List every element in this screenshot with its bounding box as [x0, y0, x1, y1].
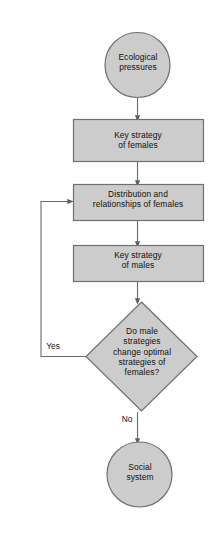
flowchart-canvas [0, 0, 218, 536]
node-key-strategy-males[interactable] [74, 246, 204, 282]
flowchart-diagram: Ecological pressures Key strategy of fem… [0, 0, 218, 536]
node-decision[interactable] [86, 302, 197, 411]
node-shape-circle [107, 442, 172, 507]
node-distribution-relationships-females[interactable] [74, 185, 204, 221]
node-shape-rect [74, 246, 204, 282]
node-ecological-pressures[interactable] [105, 33, 170, 98]
node-social-system[interactable] [107, 442, 172, 507]
node-shape-rect [74, 185, 204, 221]
node-key-strategy-females[interactable] [74, 120, 204, 162]
node-shape-diamond [86, 302, 197, 411]
node-shape-circle [105, 33, 170, 98]
node-shape-rect [74, 120, 204, 162]
